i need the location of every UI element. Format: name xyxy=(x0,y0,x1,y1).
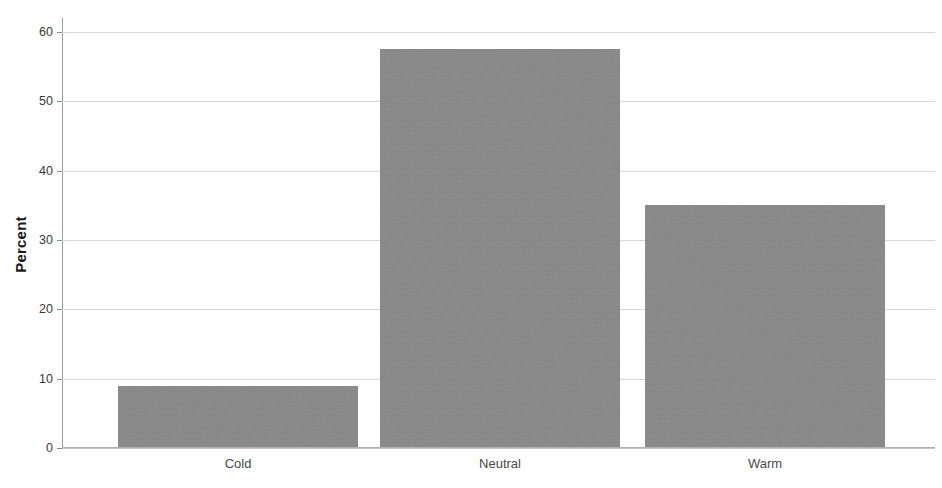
bar-neutral xyxy=(380,49,620,447)
y-axis-tick-label: 20 xyxy=(39,302,53,316)
y-axis-tick-label: 40 xyxy=(39,164,53,178)
x-axis-tick-label-cold: Cold xyxy=(225,456,252,471)
y-axis-tick-mark xyxy=(57,171,62,172)
y-axis-title-text: Percent xyxy=(12,216,29,272)
y-axis-tick-label: 10 xyxy=(39,372,53,386)
y-axis-tick-mark xyxy=(57,240,62,241)
y-axis-tick-mark xyxy=(57,379,62,380)
bar-chart: Percent 0102030405060 ColdNeutralWarm xyxy=(0,0,942,488)
x-axis-tick-label-warm: Warm xyxy=(748,456,782,471)
y-axis-tick-label: 60 xyxy=(39,25,53,39)
bar-cold xyxy=(118,386,358,447)
plot-area: 0102030405060 xyxy=(62,18,935,448)
x-axis-tick-label-neutral: Neutral xyxy=(479,456,521,471)
y-axis-tick-label: 50 xyxy=(39,94,53,108)
y-axis-spine xyxy=(62,18,63,448)
y-axis-title: Percent xyxy=(0,0,40,488)
y-axis-tick-label: 0 xyxy=(46,441,53,455)
y-axis-tick-mark xyxy=(57,309,62,310)
gridline xyxy=(62,32,935,33)
y-axis-tick-mark xyxy=(57,32,62,33)
gridline xyxy=(62,448,935,449)
y-axis-tick-mark xyxy=(57,101,62,102)
bar-warm xyxy=(645,205,885,447)
y-axis-tick-mark xyxy=(57,448,62,449)
y-axis-tick-label: 30 xyxy=(39,233,53,247)
